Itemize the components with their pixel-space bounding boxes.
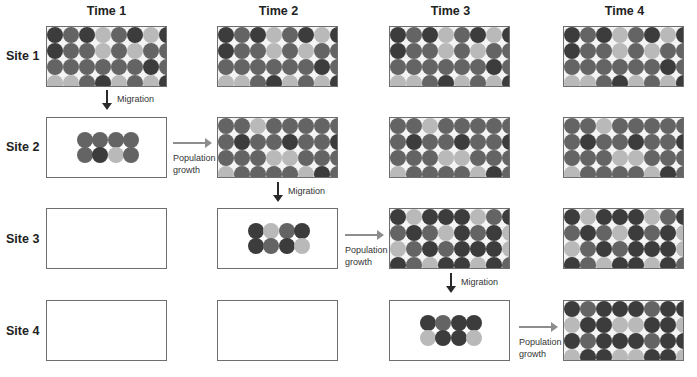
individual-dot (612, 225, 628, 241)
growth-arrow-icon (345, 234, 378, 236)
individual-dot (676, 134, 684, 150)
individual-dot (628, 209, 644, 225)
individual-dot (250, 27, 266, 43)
individual-dot (612, 118, 628, 134)
individual-dot (660, 241, 676, 257)
individual-dot (644, 118, 660, 134)
individual-dot (218, 150, 234, 166)
individual-dot (644, 43, 660, 59)
migration-label: Migration (117, 93, 154, 105)
panel-site2-time3 (389, 117, 510, 178)
individual-dot (454, 75, 470, 87)
individual-dot (580, 59, 596, 75)
individual-dot (454, 43, 470, 59)
individual-dot (612, 75, 628, 87)
individual-dot (127, 27, 143, 43)
individual-dot (676, 317, 684, 333)
individual-dot (628, 257, 644, 269)
individual-dot (564, 134, 580, 150)
individual-dot (628, 317, 644, 333)
individual-dot (406, 59, 422, 75)
panel-site3-time2 (217, 208, 338, 269)
individual-dot (470, 27, 486, 43)
individual-dot (438, 75, 454, 87)
individual-dot (564, 59, 580, 75)
individual-dot (660, 150, 676, 166)
individual-dot (234, 134, 250, 150)
individual-dot (486, 225, 502, 241)
individual-dot (502, 166, 510, 178)
individual-dot (438, 241, 454, 257)
individual-dot (218, 166, 234, 178)
individual-dot (676, 333, 684, 349)
panel-site4-time2 (217, 300, 338, 361)
growth-label: Population growth (519, 336, 562, 360)
individual-dot (628, 43, 644, 59)
individual-dot (660, 59, 676, 75)
individual-dot (660, 27, 676, 43)
individual-dot (644, 317, 660, 333)
individual-dot (282, 150, 298, 166)
individual-dot (660, 134, 676, 150)
individual-dot (438, 118, 454, 134)
individual-dot (159, 27, 167, 43)
individual-dot (676, 241, 684, 257)
individual-dot (580, 118, 596, 134)
individual-dot (79, 43, 95, 59)
column-title-time-2: Time 2 (216, 4, 341, 18)
individual-dot (422, 209, 438, 225)
individual-dot (406, 27, 422, 43)
population-grid (564, 27, 683, 86)
individual-dot (580, 150, 596, 166)
individual-dot (628, 241, 644, 257)
individual-dot (422, 150, 438, 166)
individual-dot (564, 27, 580, 43)
individual-dot (580, 317, 596, 333)
individual-dot (470, 257, 486, 269)
individual-dot (438, 225, 454, 241)
individual-dot (250, 150, 266, 166)
individual-dot (564, 317, 580, 333)
individual-dot (47, 59, 63, 75)
individual-dot (502, 241, 510, 257)
individual-dot (454, 166, 470, 178)
individual-dot (660, 333, 676, 349)
individual-dot (111, 75, 127, 87)
individual-dot (47, 27, 63, 43)
individual-dot (470, 59, 486, 75)
individual-dot (406, 150, 422, 166)
population-grid (47, 27, 166, 86)
individual-dot (298, 150, 314, 166)
individual-dot (63, 59, 79, 75)
individual-dot (234, 150, 250, 166)
individual-dot (298, 118, 314, 134)
individual-dot (294, 223, 310, 239)
individual-dot (218, 134, 234, 150)
individual-dot (234, 118, 250, 134)
individual-dot (580, 75, 596, 87)
individual-dot (628, 75, 644, 87)
individual-dot (330, 59, 338, 75)
individual-dot (644, 27, 660, 43)
individual-dot (298, 166, 314, 178)
individual-dot (502, 43, 510, 59)
individual-dot (406, 225, 422, 241)
individual-dot (218, 118, 234, 134)
individual-dot (564, 349, 580, 361)
individual-dot (127, 59, 143, 75)
individual-dot (676, 257, 684, 269)
individual-dot (486, 241, 502, 257)
individual-dot (298, 27, 314, 43)
individual-dot (279, 223, 295, 239)
individual-dot (218, 27, 234, 43)
individual-dot (580, 349, 596, 361)
individual-dot (486, 257, 502, 269)
individual-dot (644, 257, 660, 269)
column-title-time-4: Time 4 (562, 4, 687, 18)
individual-dot (420, 330, 436, 346)
individual-dot (234, 43, 250, 59)
panel-site3-time3 (389, 208, 510, 269)
migration-arrow-icon (450, 273, 452, 287)
individual-dot (266, 118, 282, 134)
individual-dot (644, 301, 660, 317)
